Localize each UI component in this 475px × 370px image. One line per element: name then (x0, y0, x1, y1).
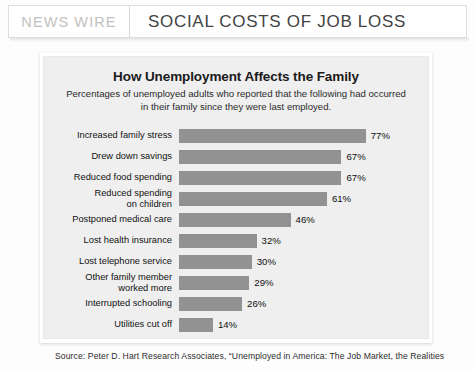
bar (179, 192, 327, 206)
bar-row: Postponed medical care46% (44, 209, 428, 230)
bar (179, 255, 252, 269)
bar-value-label: 67% (346, 172, 365, 183)
bar-track: 46% (179, 209, 428, 230)
page-title: SOCIAL COSTS OF JOB LOSS (148, 12, 406, 32)
bar-row: Lost health insurance32% (44, 230, 428, 251)
bar-track: 77% (179, 125, 428, 146)
bar-track: 14% (179, 314, 428, 335)
bar-row-label: Drew down savings (44, 151, 179, 162)
bar (179, 150, 341, 164)
chart-title: How Unemployment Affects the Family (44, 69, 428, 84)
bar (179, 276, 249, 290)
bar-value-label: 77% (371, 130, 390, 141)
bar-value-label: 46% (296, 214, 315, 225)
bar-row: Other family member worked more29% (44, 272, 428, 293)
bar (179, 234, 257, 248)
bar-track: 32% (179, 230, 428, 251)
header-kicker-label: NEWS WIRE (21, 14, 116, 30)
bar-row-label: Postponed medical care (44, 214, 179, 225)
bar-track: 29% (179, 272, 428, 293)
news-wire-infographic: NEWS WIRE SOCIAL COSTS OF JOB LOSS How U… (0, 0, 475, 370)
bar-row-label: Lost health insurance (44, 235, 179, 246)
header-shadow (10, 38, 469, 42)
bar-row: Utilities cut off14% (44, 314, 428, 335)
bar (179, 318, 213, 332)
chart-subtitle: Percentages of unemployed adults who rep… (66, 88, 406, 113)
header-bar: NEWS WIRE SOCIAL COSTS OF JOB LOSS (8, 5, 467, 38)
bar-row-label: Reduced spending on children (44, 188, 179, 209)
chart-panel: How Unemployment Affects the Family Perc… (43, 56, 429, 339)
bar (179, 297, 242, 311)
bar-rows: Increased family stress77%Drew down savi… (44, 125, 428, 335)
bar-track: 67% (179, 167, 428, 188)
bar-row: Lost telephone service30% (44, 251, 428, 272)
bar-track: 30% (179, 251, 428, 272)
bar-track: 67% (179, 146, 428, 167)
bar-value-label: 32% (262, 235, 281, 246)
bar-row: Increased family stress77% (44, 125, 428, 146)
bar-row: Reduced food spending67% (44, 167, 428, 188)
bar-row-label: Increased family stress (44, 130, 179, 141)
bar-track: 61% (179, 188, 428, 209)
bar-row-label: Lost telephone service (44, 256, 179, 267)
bar-row-label: Utilities cut off (44, 319, 179, 330)
bar (179, 129, 366, 143)
bar-row: Drew down savings67% (44, 146, 428, 167)
bar-value-label: 61% (332, 193, 351, 204)
bar (179, 171, 341, 185)
bar-track: 26% (179, 293, 428, 314)
bar-value-label: 29% (254, 277, 273, 288)
header-kicker: NEWS WIRE (9, 6, 130, 37)
bar (179, 213, 291, 227)
header-title: SOCIAL COSTS OF JOB LOSS (130, 6, 466, 37)
bar-row-label: Other family member worked more (44, 272, 179, 293)
bar-row-label: Interrupted schooling (44, 298, 179, 309)
bar-value-label: 26% (247, 298, 266, 309)
source-note: Source: Peter D. Hart Research Associate… (55, 351, 471, 361)
bar-value-label: 14% (218, 319, 237, 330)
bar-row: Reduced spending on children61% (44, 188, 428, 209)
bar-value-label: 67% (346, 151, 365, 162)
bar-row-label: Reduced food spending (44, 172, 179, 183)
bar-value-label: 30% (257, 256, 276, 267)
bar-row: Interrupted schooling26% (44, 293, 428, 314)
